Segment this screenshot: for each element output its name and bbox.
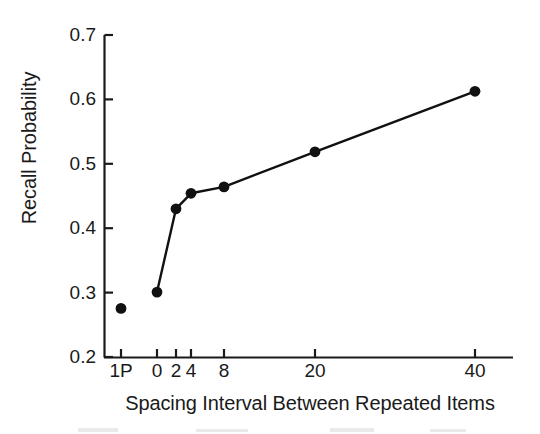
data-point-20 [310, 146, 321, 157]
scan-artifact [430, 429, 466, 432]
data-point-8 [219, 182, 230, 193]
data-point-2 [171, 203, 182, 214]
scan-artifact [330, 428, 374, 432]
data-line-spacing-series [157, 91, 475, 292]
data-point-0 [152, 287, 163, 298]
data-point-40 [470, 86, 481, 97]
scan-artifact [78, 428, 118, 432]
scan-artifact [196, 429, 248, 432]
data-point-markers [116, 86, 481, 314]
y-tick-marks [105, 35, 114, 357]
data-point-4 [186, 188, 197, 199]
figure-canvas: Recall Probability Spacing Interval Betw… [0, 0, 540, 434]
data-point-1p [116, 303, 127, 314]
plot-area [0, 0, 540, 434]
x-tick-marks [121, 349, 475, 358]
